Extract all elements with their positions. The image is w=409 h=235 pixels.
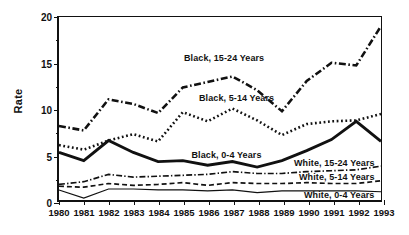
- x-tick-mark: [234, 200, 235, 205]
- y-minor-tick: [56, 133, 59, 134]
- series-line-black-15-24-years: [59, 26, 381, 130]
- x-tick-mark: [84, 200, 85, 205]
- series-annotation: White, 15-24 Years: [294, 158, 375, 168]
- x-tick-mark: [134, 200, 135, 205]
- y-tick-label: 20: [13, 12, 59, 23]
- y-minor-tick: [56, 40, 59, 41]
- x-tick-mark: [159, 200, 160, 205]
- chart-container: Rate 05101520198019811982198319841985198…: [0, 0, 409, 235]
- plot-area: 0510152019801981198219831984198519861987…: [57, 16, 382, 202]
- series-annotation: Black, 15-24 Years: [184, 53, 264, 63]
- x-tick-label: 1983: [123, 207, 144, 218]
- series-annotation: White, 0-4 Years: [304, 190, 374, 200]
- x-tick-mark: [334, 200, 335, 205]
- x-tick-label: 1981: [73, 207, 94, 218]
- y-tick-label: 10: [13, 105, 59, 116]
- x-tick-label: 1993: [373, 207, 394, 218]
- y-tick-label: 15: [13, 58, 59, 69]
- x-tick-mark: [384, 200, 385, 205]
- x-tick-mark: [284, 200, 285, 205]
- y-minor-tick: [56, 87, 59, 88]
- x-tick-mark: [59, 200, 60, 205]
- y-minor-tick: [56, 180, 59, 181]
- x-tick-label: 1988: [248, 207, 269, 218]
- x-tick-label: 1986: [198, 207, 219, 218]
- x-tick-label: 1992: [348, 207, 369, 218]
- x-tick-label: 1984: [148, 207, 169, 218]
- x-tick-mark: [309, 200, 310, 205]
- y-tick-label: 5: [13, 151, 59, 162]
- x-tick-label: 1990: [298, 207, 319, 218]
- x-tick-label: 1980: [48, 207, 69, 218]
- series-annotation: White, 5-14 Years: [299, 172, 375, 182]
- x-tick-label: 1985: [173, 207, 194, 218]
- series-annotation: Black, 5-14 Years: [199, 93, 274, 103]
- x-tick-mark: [259, 200, 260, 205]
- x-tick-mark: [209, 200, 210, 205]
- x-tick-label: 1982: [98, 207, 119, 218]
- x-tick-label: 1987: [223, 207, 244, 218]
- x-tick-mark: [184, 200, 185, 205]
- x-tick-mark: [359, 200, 360, 205]
- series-line-black-5-14-years: [59, 109, 381, 150]
- y-axis-title: Rate: [12, 71, 24, 131]
- x-tick-mark: [109, 200, 110, 205]
- series-annotation: Black, 0-4 Years: [192, 150, 262, 160]
- x-tick-label: 1991: [323, 207, 344, 218]
- x-tick-label: 1989: [273, 207, 294, 218]
